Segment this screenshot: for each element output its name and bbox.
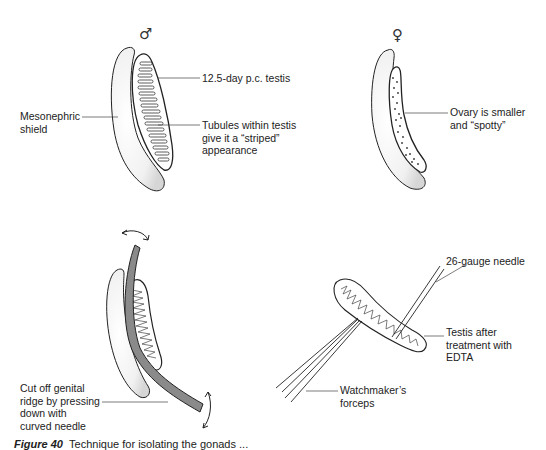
label-tubules: Tubules within testis give it a “striped… <box>202 119 296 157</box>
rotate-arrow-top <box>122 231 148 240</box>
male-panel <box>82 47 200 190</box>
needle-line <box>392 266 440 337</box>
figure-caption: Figure 40 Technique for isolating the go… <box>14 438 248 450</box>
label-testis-edta: Testis after treatment with EDTA <box>446 326 512 364</box>
cut-panel <box>102 230 211 428</box>
male-symbol-icon: ♂ <box>139 27 152 42</box>
caption-text: Technique for isolating the gonads ... <box>69 438 248 450</box>
edta-panel <box>276 265 465 402</box>
label-mesonephric-shield: Mesonephric shield <box>20 110 80 135</box>
label-ovary: Ovary is smaller and “spotty” <box>450 106 525 131</box>
female-panel <box>372 49 448 189</box>
rotate-arrow-bottom <box>203 392 210 428</box>
forceps-line <box>276 318 358 388</box>
label-testis-age: 12.5-day p.c. testis <box>202 72 290 85</box>
female-symbol-icon: ♀ <box>392 28 403 43</box>
label-cut-ridge: Cut off genital ridge by pressing down w… <box>20 382 100 432</box>
label-forceps: Watchmaker’s forceps <box>340 384 406 409</box>
label-needle: 26-gauge needle <box>446 255 525 268</box>
caption-number: Figure 40 <box>14 438 63 450</box>
